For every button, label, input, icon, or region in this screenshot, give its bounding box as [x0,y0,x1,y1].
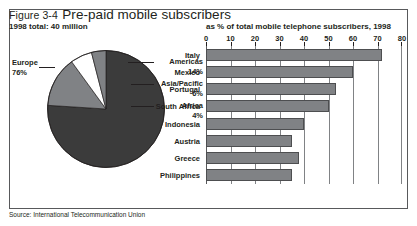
pie-leader-americas [128,62,154,63]
figure-subtitle: 1998 total: 40 million [9,22,88,31]
bar-row: Indonesia [206,118,402,130]
figure-container: Figure 3-4 Pre-paid mobile subscribers 1… [0,0,417,226]
bar-row: Portugal [206,83,402,95]
bar-portugal [206,83,336,95]
bar-chart-caption: as % of total mobile telephone subscribe… [206,22,391,31]
bar-italy [206,49,382,61]
page-title: Pre-paid mobile subscribers [62,7,231,22]
pie-label-europe: Europe 76% [12,58,38,77]
bar-south-africa [206,100,329,112]
pie-label-europe-value: 76% [12,68,38,78]
bar-chart-rows: ItalyMexicoPortugalSouth AfricaIndonesia… [206,46,402,184]
bar-row: Austria [206,135,402,147]
x-tick-80: 80 [398,34,406,43]
bar-label-austria: Austria [174,136,200,145]
bar-austria [206,135,292,147]
bar-philippines [206,169,292,181]
figure-title-row: Figure 3-4 Pre-paid mobile subscribers [9,5,231,23]
bar-chart-plot: ItalyMexicoPortugalSouth AfricaIndonesia… [206,46,402,184]
bar-row: Greece [206,152,402,164]
bar-label-philippines: Philippines [160,171,200,180]
bar-label-south-africa: South Africa [156,102,200,111]
bar-mexico [206,66,353,78]
source-note: Source: International Telecommunication … [9,211,145,218]
pie-svg [47,50,165,168]
bar-label-italy: Italy [185,50,200,59]
bar-chart: 01020304050607080 ItalyMexicoPortugalSou… [206,34,402,186]
bar-label-indonesia: Indonesia [165,119,200,128]
bar-label-greece: Greece [175,154,200,163]
bar-indonesia [206,118,304,130]
bar-label-portugal: Portugal [170,85,200,94]
pie-chart [47,50,165,168]
pie-label-europe-name: Europe [12,58,38,68]
bar-row: Mexico [206,66,402,78]
pie-leader-africa [131,106,154,107]
bar-label-mexico: Mexico [175,67,200,76]
bar-greece [206,152,299,164]
bar-row: South Africa [206,100,402,112]
pie-leader-europe [39,67,55,68]
bar-row: Philippines [206,169,402,181]
figure-number: Figure 3-4 [9,9,58,21]
bar-row: Italy [206,49,402,61]
